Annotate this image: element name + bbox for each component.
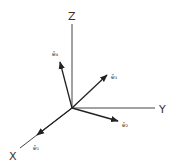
vector-e4-arrow xyxy=(60,62,72,108)
axes: Z Y X xyxy=(9,10,166,163)
vector-e2-arrow xyxy=(72,108,118,121)
vector-e3-label: ē₃ xyxy=(111,73,118,80)
vectors: ē₁ ē₂ ē₃ ē₄ xyxy=(33,50,129,151)
x-axis-label: X xyxy=(9,150,17,163)
y-axis-label: Y xyxy=(158,103,166,116)
coordinate-system-diagram: Z Y X ē₁ ē₂ ē₃ ē₄ xyxy=(0,0,172,167)
z-axis-label: Z xyxy=(68,10,76,23)
vector-e1-arrow xyxy=(37,108,72,135)
vector-e1-label: ē₁ xyxy=(33,144,40,151)
vector-e3-arrow xyxy=(72,75,107,108)
vector-e4-label: ē₄ xyxy=(52,50,59,57)
vector-e2-label: ē₂ xyxy=(122,121,129,128)
